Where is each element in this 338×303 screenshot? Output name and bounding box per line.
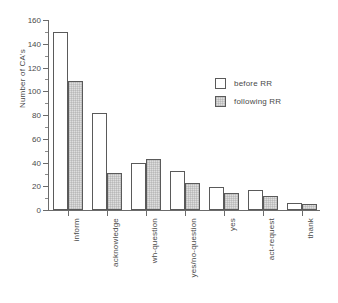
bar bbox=[224, 193, 239, 210]
y-tick-label: 20 bbox=[7, 182, 48, 191]
legend-swatch-before-rr bbox=[215, 78, 226, 89]
legend: before RR following RR bbox=[215, 76, 281, 112]
x-tick-mark bbox=[107, 210, 108, 216]
legend-item: before RR bbox=[215, 76, 281, 90]
legend-label: before RR bbox=[234, 79, 272, 88]
legend-item: following RR bbox=[215, 94, 281, 108]
x-tick-label: wh-question bbox=[150, 218, 159, 263]
bar bbox=[185, 183, 200, 210]
bar bbox=[287, 203, 302, 210]
bar bbox=[263, 196, 278, 210]
x-tick-label: act-request bbox=[267, 218, 276, 260]
bar bbox=[53, 32, 68, 210]
bar bbox=[302, 204, 317, 210]
y-tick-label: 140 bbox=[7, 39, 48, 48]
x-tick-mark bbox=[68, 210, 69, 216]
bar bbox=[146, 159, 161, 210]
y-tick-label: 80 bbox=[7, 111, 48, 120]
y-tick-label: 40 bbox=[7, 158, 48, 167]
y-tick-label: 100 bbox=[7, 87, 48, 96]
x-axis-line bbox=[48, 210, 320, 211]
x-tick-label: yes/no-question bbox=[189, 218, 198, 277]
x-tick-label: inform bbox=[72, 218, 81, 241]
bar-series-container bbox=[48, 20, 320, 210]
plot-area: 020406080100120140160 informacknowledgew… bbox=[48, 20, 320, 210]
x-tick-label: thank bbox=[306, 218, 315, 239]
bar bbox=[209, 187, 224, 210]
bar bbox=[68, 81, 83, 210]
y-tick-label: 120 bbox=[7, 63, 48, 72]
x-tick-mark bbox=[224, 210, 225, 216]
x-tick-mark bbox=[185, 210, 186, 216]
x-tick-mark bbox=[146, 210, 147, 216]
bar-chart-figure: Number of CA's 020406080100120140160 inf… bbox=[0, 0, 338, 303]
bar bbox=[107, 173, 122, 210]
legend-swatch-following-rr bbox=[215, 96, 226, 107]
x-tick-mark bbox=[302, 210, 303, 216]
x-tick-label: acknowledge bbox=[111, 218, 120, 267]
x-tick-mark bbox=[263, 210, 264, 216]
x-tick-label: yes bbox=[228, 218, 237, 231]
y-tick-label: 0 bbox=[7, 206, 48, 215]
bar bbox=[170, 171, 185, 210]
y-tick-label: 160 bbox=[7, 16, 48, 25]
bar bbox=[131, 163, 146, 211]
legend-label: following RR bbox=[234, 97, 281, 106]
bar bbox=[248, 190, 263, 210]
y-tick-label: 60 bbox=[7, 134, 48, 143]
bar bbox=[92, 113, 107, 210]
